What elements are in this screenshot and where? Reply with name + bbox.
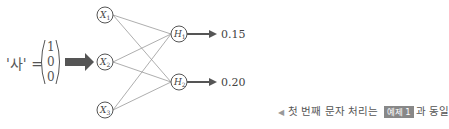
output-h1-value: 0.15 bbox=[221, 28, 246, 41]
right-paren bbox=[56, 40, 60, 84]
triangle-left-icon: ◀ bbox=[278, 108, 284, 117]
big-arrow-icon bbox=[65, 53, 94, 71]
left-paren bbox=[42, 40, 46, 84]
note-suffix: 과 동일 bbox=[416, 105, 449, 117]
example-badge: 예제 1 bbox=[384, 106, 414, 118]
output-arrow-h1 bbox=[187, 30, 217, 38]
output-h2-value: 0.20 bbox=[221, 76, 246, 89]
vector-entry-1: 1 bbox=[47, 40, 55, 54]
vector-entry-3: 0 bbox=[47, 70, 55, 84]
caption-note: ◀첫 번째 문자 처리는 예제 1과 동일 bbox=[278, 103, 449, 118]
input-vector: 1 0 0 bbox=[42, 40, 60, 84]
vector-entry-2: 0 bbox=[47, 55, 55, 69]
note-prefix: 첫 번째 문자 처리는 bbox=[288, 105, 378, 117]
output-arrow-h2 bbox=[187, 78, 217, 86]
connections bbox=[113, 15, 171, 110]
